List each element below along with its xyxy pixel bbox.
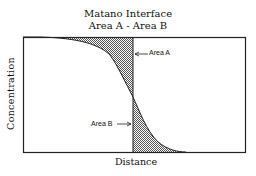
area-b-label: Area B	[91, 120, 112, 127]
y-axis-label: Concentration	[5, 54, 16, 134]
area-a-region	[40, 37, 133, 97]
area-a-label: Area A	[149, 49, 170, 56]
matano-diagram	[0, 0, 256, 176]
x-axis-label: Distance	[0, 156, 256, 167]
